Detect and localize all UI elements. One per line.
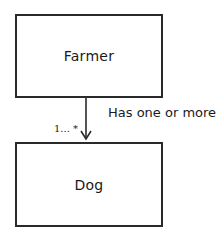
dog-class-label: Dog <box>74 177 103 193</box>
farmer-class-box: Farmer <box>15 14 163 98</box>
multiplicity-label: 1... * <box>54 123 78 134</box>
arrow-head-icon <box>81 131 91 139</box>
association-label: Has one or more <box>108 105 216 120</box>
farmer-class-label: Farmer <box>64 48 115 64</box>
dog-class-box: Dog <box>15 142 163 227</box>
